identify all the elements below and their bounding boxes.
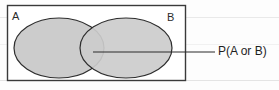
venn-diagram-figure: A B P(A or B) bbox=[0, 0, 279, 90]
set-a-label: A bbox=[12, 11, 19, 22]
set-b-ellipse bbox=[80, 18, 172, 78]
union-probability-annotation: P(A or B) bbox=[218, 45, 267, 57]
set-b-label: B bbox=[167, 12, 174, 23]
